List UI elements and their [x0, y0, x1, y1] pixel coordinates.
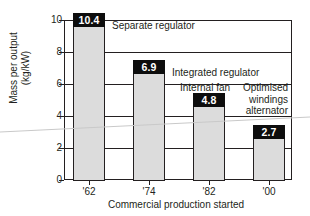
bar-62 — [73, 23, 105, 181]
x-tick-label-00: '00 — [249, 187, 289, 197]
annotation-optimised-line2: windings — [228, 94, 288, 106]
bar-00 — [253, 135, 285, 181]
annotation-separate-regulator: Separate regulator — [112, 20, 195, 32]
value-label-00: 2.7 — [253, 125, 285, 139]
y-tick-label-6: 6 — [38, 79, 62, 89]
y-axis-title-line1: Mass per output — [8, 12, 20, 124]
bar-chart: 10.4 6.9 4.8 2.7 Separate regulator Inte… — [0, 0, 310, 216]
x-tick-mark-74 — [149, 180, 150, 185]
x-tick-label-62: '62 — [69, 187, 109, 197]
value-label-62: 10.4 — [73, 13, 105, 27]
y-axis-title-line2: (kg/kW) — [20, 12, 32, 124]
x-tick-label-82: '82 — [189, 187, 229, 197]
y-tick-label-0: 0 — [38, 175, 62, 185]
y-tick-label-8: 8 — [38, 47, 62, 57]
value-label-82: 4.8 — [193, 93, 225, 107]
x-tick-label-74: '74 — [129, 187, 169, 197]
y-axis-title: Mass per output (kg/kW) — [8, 12, 32, 124]
value-label-74: 6.9 — [133, 60, 165, 74]
y-tick-label-10: 10 — [38, 15, 62, 25]
x-tick-mark-62 — [89, 180, 90, 185]
y-tick-label-4: 4 — [38, 111, 62, 121]
annotation-internal-fan: Internal fan — [180, 82, 230, 94]
y-tick-label-2: 2 — [38, 143, 62, 153]
x-tick-mark-82 — [209, 180, 210, 185]
annotation-integrated-regulator: Integrated regulator — [172, 67, 259, 79]
annotation-optimised-line1: Optimised — [228, 82, 288, 94]
annotation-optimised-windings-alternator: Optimised windings alternator — [228, 82, 288, 117]
bar-74 — [133, 70, 165, 181]
x-tick-mark-00 — [269, 180, 270, 185]
x-axis-title: Commercial production started — [0, 200, 310, 210]
annotation-optimised-line3: alternator — [228, 105, 288, 117]
bar-82 — [193, 103, 225, 181]
